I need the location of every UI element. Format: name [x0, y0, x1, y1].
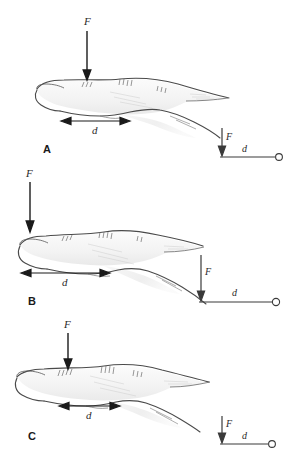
pivot-circle-c — [269, 441, 276, 448]
panel-b: F d B F d — [0, 160, 293, 318]
schematic-lever-b — [0, 160, 293, 318]
finger-drawing-b — [0, 160, 293, 318]
panel-label-b: B — [28, 295, 36, 307]
schematic-distance-label-b: d — [232, 287, 237, 298]
schematic-lever-a — [0, 0, 293, 160]
distance-label-c: d — [86, 409, 92, 421]
schematic-distance-label-a: d — [242, 143, 247, 154]
panel-a: F d A F d — [0, 0, 293, 160]
schematic-distance-label-c: d — [242, 430, 247, 441]
distance-label-b: d — [62, 276, 68, 288]
panel-label-c: C — [28, 430, 36, 442]
schematic-lever-c — [0, 318, 293, 463]
force-arrow-c — [64, 333, 72, 369]
finger-drawing-a — [0, 0, 293, 160]
schematic-force-label-a: F — [226, 131, 232, 142]
figure-canvas: F d A F d — [0, 0, 293, 463]
force-label-a: F — [84, 15, 91, 27]
panel-c: F d C F d — [0, 318, 293, 463]
finger-drawing-c — [0, 318, 293, 463]
schematic-force-label-b: F — [205, 266, 211, 277]
distance-label-a: d — [92, 124, 98, 136]
schematic-force-label-c: F — [226, 418, 232, 429]
panel-label-a: A — [43, 143, 51, 155]
force-arrow-a — [83, 31, 91, 80]
force-label-b: F — [26, 167, 33, 179]
force-label-c: F — [64, 318, 71, 330]
pivot-circle-b — [272, 298, 279, 305]
force-arrow-b — [26, 182, 34, 232]
